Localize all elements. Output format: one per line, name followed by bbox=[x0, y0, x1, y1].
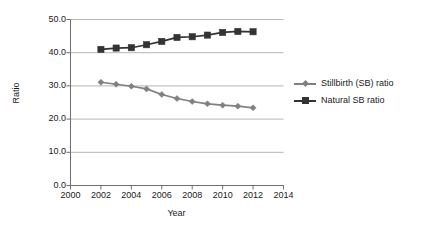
y-axis-title: Ratio bbox=[11, 63, 21, 123]
legend-marker bbox=[302, 97, 309, 104]
marker-square bbox=[143, 42, 149, 48]
axis-lines bbox=[71, 20, 284, 186]
marker-square bbox=[174, 34, 180, 40]
y-tick-label: 20.0 bbox=[28, 114, 66, 123]
marker-diamond bbox=[98, 79, 104, 85]
marker-square bbox=[128, 45, 134, 51]
series-layer bbox=[98, 28, 256, 110]
marker-diamond bbox=[235, 103, 241, 109]
chart-legend: Stillbirth (SB) ratioNatural SB ratio bbox=[294, 76, 424, 110]
marker-diamond bbox=[128, 83, 134, 89]
marker-diamond bbox=[159, 92, 165, 98]
marker-diamond bbox=[220, 102, 226, 108]
marker-diamond bbox=[174, 96, 180, 102]
marker-square bbox=[235, 28, 241, 34]
marker-square bbox=[250, 29, 256, 35]
marker-square bbox=[220, 29, 226, 35]
legend-item[interactable]: Natural SB ratio bbox=[294, 93, 424, 108]
y-tick-label: 50.0 bbox=[28, 15, 66, 24]
marker-square bbox=[159, 38, 165, 44]
line-chart: 0.010.020.030.040.050.0 2000200220042006… bbox=[0, 0, 426, 228]
marker-diamond bbox=[204, 101, 210, 107]
legend-square-marker-icon bbox=[294, 95, 316, 106]
y-tick-label: 10.0 bbox=[28, 147, 66, 156]
legend-label: Stillbirth (SB) ratio bbox=[321, 78, 394, 89]
marker-diamond bbox=[250, 105, 256, 111]
y-tick-label: 0.0 bbox=[28, 181, 66, 190]
marker-square bbox=[204, 32, 210, 38]
gridlines bbox=[71, 20, 284, 186]
legend-diamond-marker-icon bbox=[294, 78, 316, 89]
marker-diamond bbox=[189, 99, 195, 105]
marker-square bbox=[98, 46, 104, 52]
marker-diamond bbox=[144, 86, 150, 92]
x-tick-marks bbox=[67, 20, 284, 190]
legend-marker bbox=[302, 80, 309, 87]
marker-square bbox=[189, 34, 195, 40]
legend-item[interactable]: Stillbirth (SB) ratio bbox=[294, 76, 424, 91]
legend-label: Natural SB ratio bbox=[321, 95, 385, 106]
x-axis-title: Year bbox=[70, 208, 283, 218]
marker-square bbox=[113, 45, 119, 51]
y-tick-label: 40.0 bbox=[28, 48, 66, 57]
y-tick-label: 30.0 bbox=[28, 81, 66, 90]
x-tick-label: 2014 bbox=[264, 190, 304, 200]
